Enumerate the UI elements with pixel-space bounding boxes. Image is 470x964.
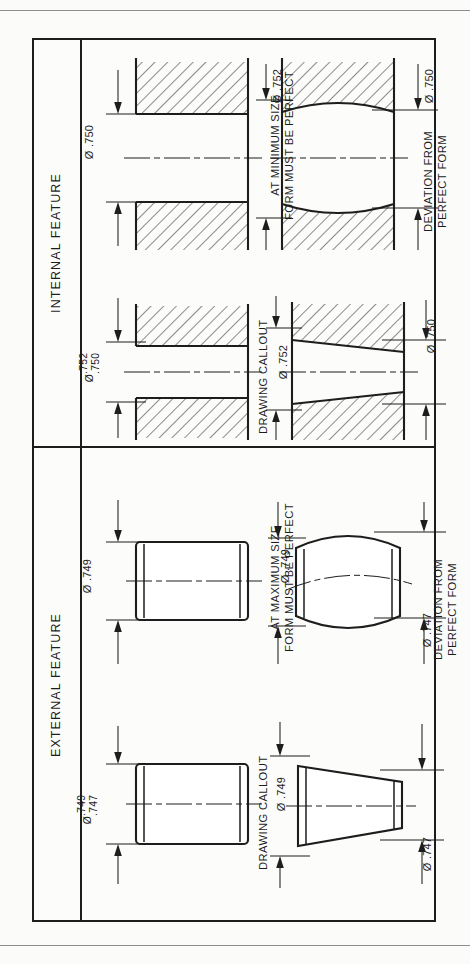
section-divider: [34, 446, 434, 448]
dimension-upper: .752: [78, 353, 89, 374]
figure-internal-taper: [262, 290, 452, 440]
drawing-frame: INTERNAL FEATURE EXTERNAL FEATURE: [32, 38, 436, 922]
caption-internal-deviation: DEVIATION FROM PERFECT FORM: [422, 97, 449, 267]
dimension-lower: .747: [87, 795, 98, 816]
dimension-external-taper-left: Ø .749: [275, 759, 287, 829]
dimension-external-deviation-left: Ø .749: [279, 531, 291, 601]
dimension-internal-min-size: Ø .750: [83, 107, 95, 177]
dimension-lower: .750: [89, 353, 100, 374]
caption-external-deviation: DEVIATION FROM PERFECT FORM: [432, 525, 459, 695]
dimension-external-taper-right: Ø .747: [421, 819, 433, 889]
section-label-external: EXTERNAL FEATURE: [49, 617, 63, 757]
dimension-external-max-size: Ø .749: [81, 541, 93, 611]
diameter-symbol: Ø: [81, 816, 93, 824]
dimension-internal-deviation-left: Ø .752: [271, 51, 283, 121]
page-rule-bottom: [0, 945, 470, 946]
caption-line-2: PERFECT FORM: [445, 563, 457, 656]
figure-internal-callout: [90, 290, 280, 440]
figure-external-max-size: [90, 488, 280, 678]
diameter-symbol: Ø: [83, 374, 95, 382]
drawing-sheet: INTERNAL FEATURE EXTERNAL FEATURE: [0, 0, 470, 964]
section-label-internal: INTERNAL FEATURE: [49, 173, 63, 313]
figure-external-callout: [90, 712, 280, 892]
caption-line-1: DEVIATION FROM: [422, 131, 434, 232]
caption-line-2: PERFECT FORM: [435, 135, 447, 228]
dimension-external-callout: Ø .749 .747: [76, 771, 99, 849]
dimension-internal-taper-right: Ø .750: [425, 301, 437, 371]
caption-line-1: DEVIATION FROM: [432, 559, 444, 660]
dimension-internal-taper-left: Ø .752: [277, 327, 289, 397]
dimension-internal-callout: Ø .752 .750: [78, 329, 101, 407]
dimension-upper: .749: [76, 795, 87, 816]
page-rule-top: [0, 10, 470, 11]
